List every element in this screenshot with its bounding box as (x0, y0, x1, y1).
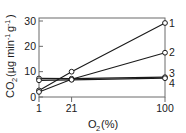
series-label-2: 2 (169, 46, 175, 58)
y-axis-ticks (39, 21, 43, 97)
y-axis-label-subscript: 2 (10, 78, 19, 82)
series-label-1: 1 (169, 17, 175, 29)
y-axis-label-exponent-2: -1 (4, 20, 11, 26)
series-line-2 (37, 50, 168, 94)
series-line-1 (37, 21, 168, 93)
y-tick-label-20: 20 (24, 40, 36, 52)
line-chart: 0 10 20 30 1 21 100 (0, 0, 186, 132)
y-axis-label-base: CO (4, 81, 16, 98)
y-axis-label: CO 2 (µg min -1 g -1 ) (4, 14, 19, 98)
y-tick-label-0: 0 (30, 91, 36, 103)
series-label-4: 4 (169, 77, 175, 89)
data-point (37, 78, 42, 83)
x-tick-label-100: 100 (156, 102, 174, 114)
x-axis-label-unit: (%) (101, 118, 118, 130)
data-point (163, 21, 168, 26)
x-axis-label: O 2 (%) (88, 118, 118, 132)
data-point (69, 77, 74, 82)
data-point (69, 69, 74, 74)
data-point (163, 76, 168, 81)
y-axis-label-unit-open: (µg min (4, 40, 16, 77)
y-axis-label-exponent-1: -1 (4, 34, 11, 40)
y-tick-label-10: 10 (24, 65, 36, 77)
y-axis-label-unit-close: ) (4, 14, 16, 18)
x-axis-ticks (39, 97, 165, 102)
y-tick-label-30: 30 (24, 15, 36, 27)
data-point (163, 50, 168, 55)
x-tick-label-21: 21 (66, 102, 78, 114)
chart-figure: 0 10 20 30 1 21 100 (0, 0, 186, 132)
x-axis-label-subscript: 2 (96, 124, 100, 133)
data-point (37, 90, 42, 95)
x-tick-label-1: 1 (36, 102, 42, 114)
